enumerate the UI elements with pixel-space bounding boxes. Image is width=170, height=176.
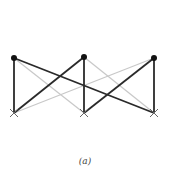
node-dot-icon: [11, 55, 17, 61]
figure-caption: (a): [0, 156, 170, 166]
node-dot-icon: [81, 54, 87, 60]
bipartite-graph: [0, 0, 170, 176]
node-dot-icon: [151, 55, 157, 61]
edges: [14, 57, 154, 113]
